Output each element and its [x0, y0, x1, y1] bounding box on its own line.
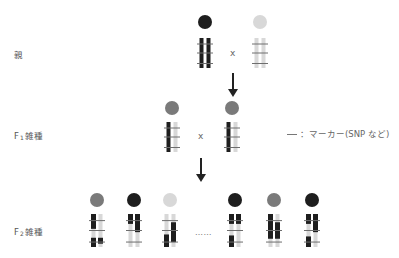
breeding-diagram: 親 F1雑種 F2雑種 x x …… ：マーカー(SNP など) [0, 0, 399, 258]
plant-circle [163, 193, 177, 207]
chromosome-segment [135, 214, 140, 232]
parents-plant-1 [197, 15, 213, 68]
chromosome-segment [229, 235, 234, 247]
chromosome-segment [236, 214, 241, 224]
f2-plant-3 [162, 193, 178, 247]
f2-plant-1 [89, 193, 105, 247]
chromosome-segment [229, 214, 234, 224]
chromosome-segment [268, 214, 273, 239]
f2-plant-5 [266, 193, 282, 247]
plant-circle [90, 193, 104, 207]
plant-circle [267, 193, 281, 207]
plants-svg [0, 0, 399, 258]
parents-plant-2 [252, 15, 268, 68]
plant-circle [127, 193, 141, 207]
chromosome-segment [91, 214, 96, 229]
f2-plant-6 [304, 193, 320, 247]
arrow-f1-to-f2 [196, 158, 206, 182]
f2-plant-4 [227, 193, 243, 247]
chromosome-segment [128, 214, 133, 224]
chromosome-segment [313, 214, 318, 232]
plant-circle [228, 193, 242, 207]
f2-plant-2 [126, 193, 142, 247]
plant-circle [305, 193, 319, 207]
plant-circle [225, 101, 239, 115]
plant-circle [165, 101, 179, 115]
plant-circle [198, 15, 212, 29]
chromosome-segment [98, 238, 103, 244]
chromosome-segment [171, 222, 176, 242]
chromosome-segment [164, 234, 169, 247]
plant-circle [253, 15, 267, 29]
f1-plant-1 [164, 101, 180, 152]
arrow-parents-to-f1 [228, 73, 238, 97]
f1-plant-2 [224, 101, 240, 152]
chromosome-segment [306, 214, 311, 224]
